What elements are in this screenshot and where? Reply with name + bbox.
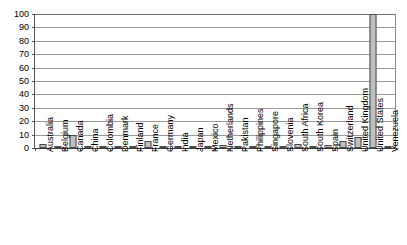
x-axis-label-slot: China xyxy=(79,150,94,245)
x-axis-label-slot: South Korea xyxy=(304,150,319,245)
x-axis-tick-label: Germany xyxy=(166,115,175,152)
x-axis-label-slot: Slovenia xyxy=(274,150,289,245)
y-axis-tick-label: 100 xyxy=(14,10,29,19)
x-axis-label-slot: Finland xyxy=(124,150,139,245)
x-axis-label-slot: United Kingdom xyxy=(349,150,364,245)
x-axis-label-slot: South Africa xyxy=(289,150,304,245)
y-axis-tick-label: 30 xyxy=(19,104,29,113)
x-axis-tick-label: France xyxy=(151,124,160,152)
x-axis-label-slot: Australia xyxy=(34,150,49,245)
x-axis-tick-label: South Africa xyxy=(301,103,310,152)
y-axis-tick-label: 90 xyxy=(19,23,29,32)
y-axis-tick-label: 20 xyxy=(19,117,29,126)
x-axis-label-slot: Japan xyxy=(184,150,199,245)
y-axis-tick-label: 70 xyxy=(19,50,29,59)
x-axis-label-slot: Singapore xyxy=(259,150,274,245)
y-axis-tick-label: 10 xyxy=(19,131,29,140)
x-axis-tick-label: South Korea xyxy=(316,102,325,152)
y-axis-tick-label: 60 xyxy=(19,64,29,73)
x-axis-tick-label: Switzerland xyxy=(346,105,355,152)
x-axis-label-slot: Switzerland xyxy=(334,150,349,245)
y-axis-tick-label: 0 xyxy=(24,144,29,153)
x-axis-tick-label: Japan xyxy=(196,127,205,152)
x-axis-tick-label: Philippines xyxy=(256,108,265,152)
x-axis: AustraliaBelgiumCanadaChinaColombiaDenma… xyxy=(34,150,394,245)
x-axis-label-slot: Canada xyxy=(64,150,79,245)
y-axis-tick-label: 50 xyxy=(19,77,29,86)
x-axis-label-slot: Colombia xyxy=(94,150,109,245)
x-axis-tick-label: Australia xyxy=(46,117,55,152)
x-axis-tick-label: Spain xyxy=(331,129,340,152)
x-axis-tick-label: United Kingdom xyxy=(361,88,370,152)
x-axis-tick-label: Venezuela xyxy=(391,110,400,152)
x-axis-tick-label: Slovenia xyxy=(286,117,295,152)
y-axis-tick-label: 40 xyxy=(19,90,29,99)
y-axis-tick-label: 80 xyxy=(19,37,29,46)
x-axis-label-slot: Spain xyxy=(319,150,334,245)
x-axis-tick-label: Netherlands xyxy=(226,103,235,152)
x-axis-label-slot: Venezuela xyxy=(379,150,394,245)
x-axis-tick-label: Belgium xyxy=(61,119,70,152)
x-axis-label-slot: Belgium xyxy=(49,150,64,245)
y-axis: 0102030405060708090100 xyxy=(0,8,32,150)
x-axis-label-slot: Denmark xyxy=(109,150,124,245)
x-axis-tick-label: Colombia xyxy=(106,114,115,152)
x-axis-tick-label: Canada xyxy=(76,120,85,152)
x-axis-label-slot: Pakistan xyxy=(229,150,244,245)
x-axis-label-slot: Mexico xyxy=(199,150,214,245)
x-axis-label-slot: India xyxy=(169,150,184,245)
x-axis-label-slot: United States xyxy=(364,150,379,245)
x-axis-label-slot: Philippines xyxy=(244,150,259,245)
x-axis-tick-label: China xyxy=(91,128,100,152)
x-axis-tick-label: Denmark xyxy=(121,115,130,152)
x-axis-label-slot: Germany xyxy=(154,150,169,245)
x-axis-label-slot: Netherlands xyxy=(214,150,229,245)
bar-chart: 0102030405060708090100 AustraliaBelgiumC… xyxy=(0,0,407,245)
x-axis-tick-label: Singapore xyxy=(271,111,280,152)
x-axis-tick-label: Pakistan xyxy=(241,117,250,152)
x-axis-tick-label: Finland xyxy=(136,122,145,152)
x-axis-tick-label: United States xyxy=(376,98,385,152)
x-axis-label-slot: France xyxy=(139,150,154,245)
x-axis-tick-label: Mexico xyxy=(211,123,220,152)
